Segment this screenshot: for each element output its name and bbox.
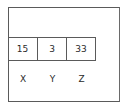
label-x: X (8, 72, 38, 86)
value-cell-z: 33 (67, 38, 96, 60)
value-row: 15 3 33 (8, 37, 96, 61)
label-y: Y (38, 72, 67, 86)
label-z: Z (67, 72, 96, 86)
value-cell-x: 15 (8, 38, 38, 60)
label-row: X Y Z (8, 72, 96, 86)
value-cell-y: 3 (38, 38, 67, 60)
